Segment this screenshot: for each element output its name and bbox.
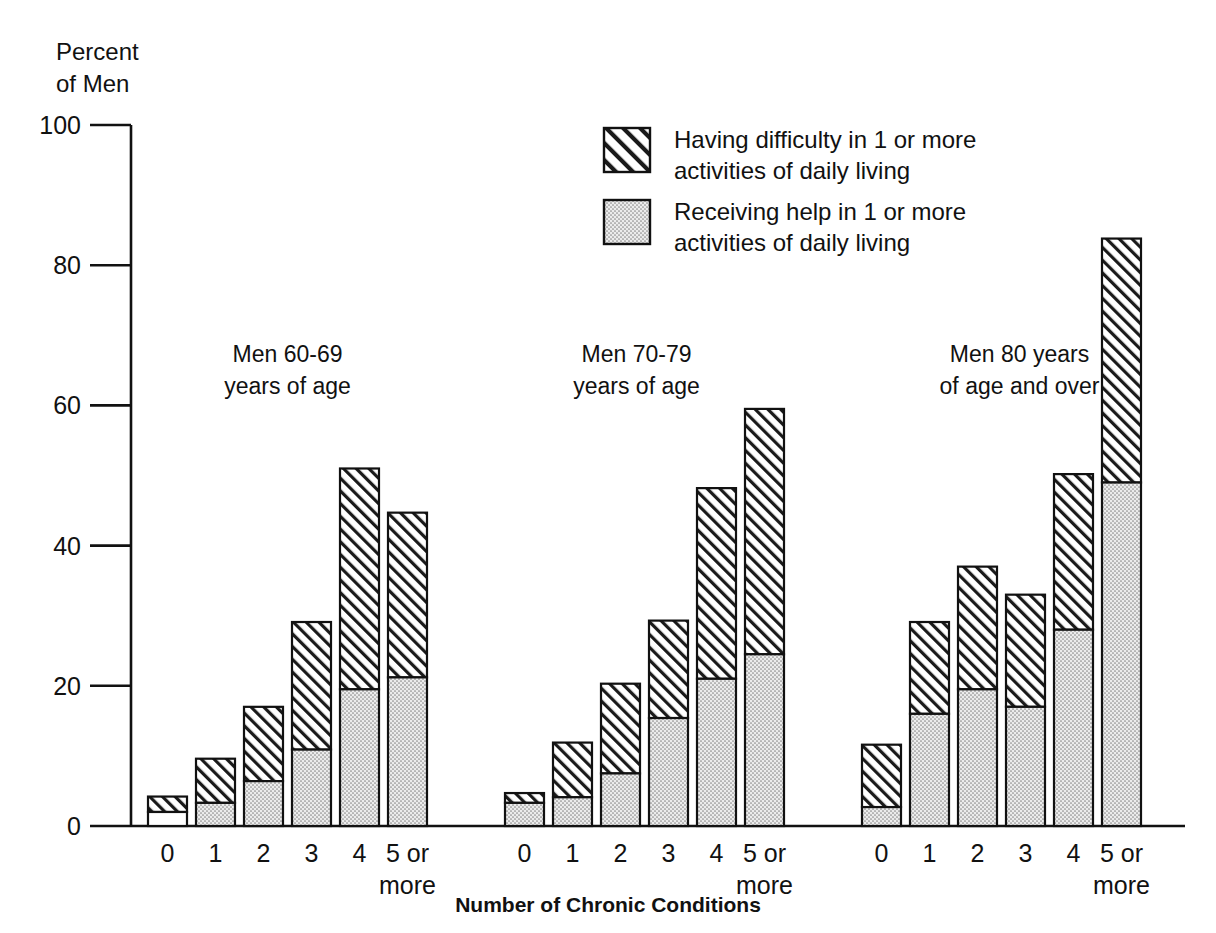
bar-segment-having-difficulty	[1102, 239, 1141, 483]
group-label: of age and over	[940, 373, 1100, 399]
x-axis-title: Number of Chronic Conditions	[455, 893, 761, 916]
group-label: years of age	[224, 373, 351, 399]
y-tick-label: 40	[53, 532, 81, 560]
x-tick-label: 1	[566, 839, 580, 867]
bar-segment-receiving-help	[862, 807, 901, 826]
x-tick-labels-layer: 012345 ormore012345 ormore012345 ormore	[161, 839, 1150, 899]
bar-segment-receiving-help	[1006, 707, 1045, 826]
x-tick-label: 5 or	[386, 839, 429, 867]
x-tick-label: 1	[923, 839, 937, 867]
y-axis-title: Percent of Men	[56, 38, 139, 97]
bar-segment-having-difficulty	[745, 409, 784, 654]
x-tick-label: 2	[971, 839, 985, 867]
x-tick-label: 0	[161, 839, 175, 867]
x-tick-label: 2	[257, 839, 271, 867]
y-tick-label: 0	[67, 812, 81, 840]
x-tick-label: 3	[305, 839, 319, 867]
bar-segment-receiving-help	[244, 781, 283, 826]
bar-segment-having-difficulty	[244, 707, 283, 781]
chart-canvas: Percent of Men 020406080100 Men 60-69yea…	[0, 0, 1216, 933]
group-label: Men 80 years	[950, 341, 1089, 367]
chart-figure: Percent of Men 020406080100 Men 60-69yea…	[0, 0, 1216, 933]
bar-segment-receiving-help	[697, 679, 736, 826]
x-tick-label: 3	[662, 839, 676, 867]
group-label: years of age	[573, 373, 700, 399]
bar-segment-receiving-help	[1054, 630, 1093, 826]
x-tick-label: 1	[209, 839, 223, 867]
bar-segment-having-difficulty	[505, 793, 544, 803]
y-tick-label: 20	[53, 672, 81, 700]
bar-segment-having-difficulty	[1006, 595, 1045, 707]
bar-segment-having-difficulty	[862, 745, 901, 807]
legend-label: Having difficulty in 1 or more	[674, 126, 976, 153]
legend-label: activities of daily living	[674, 229, 910, 256]
y-axis-title-line2: of Men	[56, 70, 129, 97]
legend-label: activities of daily living	[674, 157, 910, 184]
bar-segment-having-difficulty	[1054, 474, 1093, 630]
bar-segment-having-difficulty	[649, 621, 688, 718]
bar-segment-having-difficulty	[340, 468, 379, 689]
bar-segment-receiving-help	[148, 812, 187, 826]
bar-segment-receiving-help	[292, 750, 331, 826]
chart-legend: Having difficulty in 1 or moreactivities…	[604, 126, 976, 256]
legend-swatch-receiving-help	[604, 200, 650, 244]
bar-segment-receiving-help	[1102, 483, 1141, 826]
bar-segment-receiving-help	[745, 654, 784, 826]
bar-segment-receiving-help	[553, 797, 592, 826]
bar-segment-having-difficulty	[958, 567, 997, 690]
bar-segment-having-difficulty	[148, 797, 187, 812]
bar-segment-receiving-help	[601, 773, 640, 826]
bar-segment-having-difficulty	[601, 684, 640, 774]
x-tick-label: 4	[710, 839, 724, 867]
bar-segment-receiving-help	[649, 718, 688, 826]
bar-segment-receiving-help	[388, 677, 427, 826]
bar-segment-receiving-help	[910, 714, 949, 826]
x-tick-label: 2	[614, 839, 628, 867]
y-tick-label: 80	[53, 251, 81, 279]
y-tick-label: 100	[39, 111, 81, 139]
x-tick-label: 4	[353, 839, 367, 867]
bar-segment-having-difficulty	[697, 488, 736, 679]
group-labels-layer: Men 60-69years of ageMen 70-79years of a…	[224, 341, 1100, 399]
y-axis-title-line1: Percent	[56, 38, 139, 65]
bar-segment-receiving-help	[505, 803, 544, 826]
bars-layer	[148, 239, 1141, 826]
y-tick-label: 60	[53, 391, 81, 419]
group-label: Men 60-69	[233, 341, 343, 367]
bar-segment-receiving-help	[958, 689, 997, 826]
bar-segment-having-difficulty	[388, 513, 427, 678]
x-tick-label: 0	[875, 839, 889, 867]
bar-segment-having-difficulty	[910, 622, 949, 714]
x-tick-label: more	[379, 871, 436, 899]
group-label: Men 70-79	[582, 341, 692, 367]
x-tick-label: 4	[1067, 839, 1081, 867]
bar-segment-having-difficulty	[292, 622, 331, 750]
x-tick-label: 3	[1019, 839, 1033, 867]
legend-label: Receiving help in 1 or more	[674, 198, 966, 225]
x-tick-label: 5 or	[1100, 839, 1143, 867]
bar-segment-receiving-help	[340, 689, 379, 826]
x-tick-label: 5 or	[743, 839, 786, 867]
x-tick-label: more	[1093, 871, 1150, 899]
legend-swatch-having-difficulty	[604, 128, 650, 172]
x-tick-label: 0	[518, 839, 532, 867]
bar-segment-having-difficulty	[196, 759, 235, 803]
bar-segment-receiving-help	[196, 803, 235, 826]
bar-segment-having-difficulty	[553, 743, 592, 798]
